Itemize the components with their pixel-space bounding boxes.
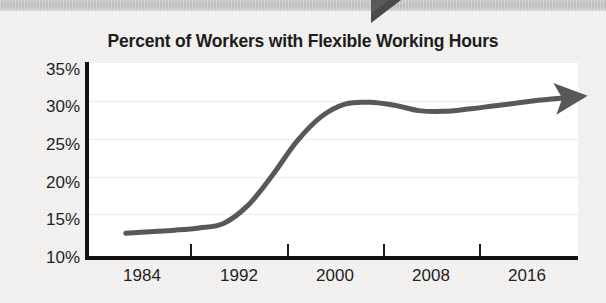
y-tick-label-35: 35% bbox=[4, 60, 80, 80]
x-tick-mark-3 bbox=[383, 244, 385, 257]
x-tick-label-1984: 1984 bbox=[97, 266, 187, 286]
y-tick-label-20: 20% bbox=[4, 173, 80, 193]
y-tick-label-15: 15% bbox=[4, 210, 80, 230]
y-tick-label-25: 25% bbox=[4, 135, 80, 155]
y-tick-label-10: 10% bbox=[4, 248, 80, 268]
y-axis-line bbox=[85, 62, 89, 259]
x-tick-label-1992: 1992 bbox=[194, 266, 284, 286]
y-tick-label-30: 30% bbox=[4, 97, 80, 117]
plot-area bbox=[89, 63, 578, 258]
x-tick-mark-2 bbox=[287, 244, 289, 257]
x-tick-label-2000: 2000 bbox=[290, 266, 380, 286]
top-band-texture bbox=[0, 0, 606, 11]
chart-page: Percent of Workers with Flexible Working… bbox=[0, 0, 606, 303]
x-tick-mark-1 bbox=[190, 244, 192, 257]
gridline-15 bbox=[89, 214, 578, 215]
gridline-25 bbox=[89, 139, 578, 140]
x-tick-label-2008: 2008 bbox=[386, 266, 476, 286]
x-tick-mark-4 bbox=[479, 244, 481, 257]
y-axis-tick-labels: 35% 30% 25% 20% 15% 10% bbox=[0, 0, 80, 303]
x-tick-label-2016: 2016 bbox=[482, 266, 572, 286]
gridline-30 bbox=[89, 101, 578, 102]
page-notch-shade-icon bbox=[371, 0, 389, 14]
gridline-20 bbox=[89, 177, 578, 178]
x-axis-line bbox=[85, 256, 578, 260]
chart-title: Percent of Workers with Flexible Working… bbox=[0, 31, 606, 52]
page-top-band bbox=[0, 0, 606, 11]
